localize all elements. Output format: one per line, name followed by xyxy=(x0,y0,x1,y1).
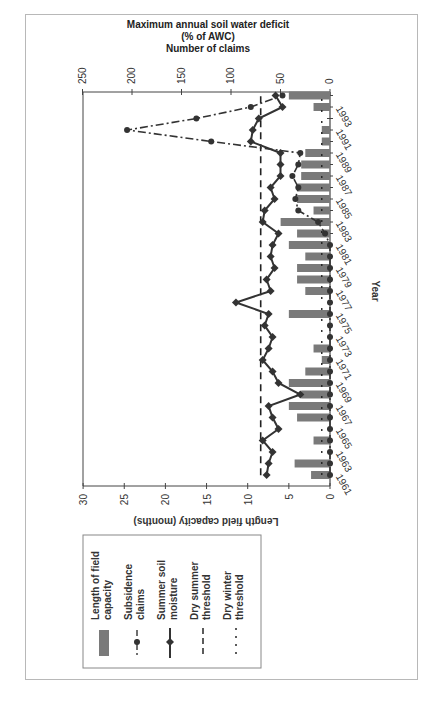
claims-marker xyxy=(327,461,333,467)
claims-marker xyxy=(295,162,301,168)
soil-moisture-marker xyxy=(265,402,273,410)
field-capacity-bar xyxy=(301,391,330,399)
year-tick-label: 1969 xyxy=(334,380,355,405)
field-capacity-bar xyxy=(322,138,330,146)
months-tick-label: 5 xyxy=(284,494,295,500)
soil-moisture-marker xyxy=(277,161,285,169)
claims-marker xyxy=(327,346,333,352)
field-capacity-bar xyxy=(305,149,330,157)
months-tick-label: 10 xyxy=(243,494,254,506)
soil-moisture-marker xyxy=(269,241,277,249)
claims-marker xyxy=(292,196,298,202)
claims-marker xyxy=(327,254,333,260)
claims-marker xyxy=(208,139,214,145)
secondary-tick-label: 150 xyxy=(176,67,187,84)
secondary-tick-label: 100 xyxy=(225,67,236,84)
claims-marker xyxy=(327,277,333,283)
field-capacity-bar xyxy=(301,161,330,169)
claims-marker xyxy=(327,265,333,271)
soil-moisture-marker xyxy=(249,126,257,134)
claims-marker xyxy=(297,150,303,156)
legend-bar-icon xyxy=(99,630,109,656)
field-capacity-bar xyxy=(297,264,330,272)
year-tick-label: 1967 xyxy=(334,403,355,428)
year-tick-label: 1989 xyxy=(334,150,355,175)
claims-marker xyxy=(327,380,333,386)
legend: Length of fieldcapacitySubsidenceclaimsS… xyxy=(83,535,261,668)
months-tick-label: 20 xyxy=(160,494,171,506)
field-capacity-bar xyxy=(322,126,330,134)
months-tick-label: 25 xyxy=(119,494,130,506)
legend-label: threshold xyxy=(234,574,245,620)
soil-moisture-marker xyxy=(267,287,275,295)
claims-marker xyxy=(327,288,333,294)
legend-label: Subsidence xyxy=(123,563,134,620)
claims-marker xyxy=(327,300,333,306)
soil-moisture-marker xyxy=(269,414,277,422)
year-tick-label: 1975 xyxy=(334,311,355,336)
year-tick-label: 1993 xyxy=(334,104,355,129)
field-capacity-bar xyxy=(297,195,330,203)
field-capacity-bar xyxy=(297,276,330,284)
secondary-tick-label: 200 xyxy=(126,67,137,84)
chart-title: Maximum annual soil water deficit (% of … xyxy=(127,19,290,54)
secondary-tick-label: 250 xyxy=(77,67,88,84)
legend-label: capacity xyxy=(102,580,113,620)
legend-label: Dry winter xyxy=(222,571,233,620)
claims-marker xyxy=(327,472,333,478)
field-capacity-bar xyxy=(289,241,330,249)
months-tick-label: 0 xyxy=(325,494,336,500)
claims-marker xyxy=(315,219,321,225)
claims-marker xyxy=(248,104,254,110)
claims-marker xyxy=(327,449,333,455)
field-capacity-bar xyxy=(289,379,330,387)
claims-marker xyxy=(327,311,333,317)
field-capacity-bar xyxy=(289,310,330,318)
legend-label: Length of field xyxy=(90,551,101,620)
claims-marker xyxy=(327,357,333,363)
claims-marker xyxy=(327,403,333,409)
legend-label: threshold xyxy=(201,574,212,620)
field-capacity-bar xyxy=(297,184,330,192)
claims-marker xyxy=(327,369,333,375)
soil-moisture-marker xyxy=(232,299,240,307)
field-capacity-bar xyxy=(281,218,330,226)
year-axis-title: Year xyxy=(370,280,381,301)
year-tick-label: 1985 xyxy=(334,196,355,221)
claims-marker xyxy=(327,438,333,444)
claims-marker xyxy=(327,415,333,421)
year-tick-label: 1981 xyxy=(334,242,355,267)
claims-marker xyxy=(327,426,333,432)
year-tick-label: 1987 xyxy=(334,173,355,198)
claims-marker xyxy=(124,127,130,133)
field-capacity-bar xyxy=(295,460,330,468)
claims-marker xyxy=(295,185,301,191)
claims-marker xyxy=(322,231,328,237)
months-tick-label: 30 xyxy=(78,494,89,506)
svg-text:(% of AWC): (% of AWC) xyxy=(181,31,235,42)
year-tick-label: 1971 xyxy=(334,357,355,382)
plot-area: 050100150200250051015202530Length field … xyxy=(77,67,382,527)
claims-marker xyxy=(327,334,333,340)
soil-moisture-marker xyxy=(263,471,271,479)
soil-moisture-marker xyxy=(265,310,273,318)
soil-moisture-line xyxy=(236,96,300,476)
field-capacity-bar xyxy=(305,368,330,376)
months-axis-title: Length field capacity (months) xyxy=(133,516,278,527)
claims-marker xyxy=(279,93,285,99)
claims-marker xyxy=(327,242,333,248)
soil-moisture-marker xyxy=(247,138,255,146)
svg-text:Number of claims: Number of claims xyxy=(166,43,250,54)
year-tick-label: 1979 xyxy=(334,265,355,290)
year-tick-label: 1983 xyxy=(334,219,355,244)
soil-moisture-marker xyxy=(275,379,283,387)
legend-label: moisture xyxy=(168,577,179,620)
soil-moisture-marker xyxy=(267,253,275,261)
year-tick-label: 1965 xyxy=(334,426,355,451)
soil-moisture-marker xyxy=(265,460,273,468)
field-capacity-bar xyxy=(314,103,330,111)
field-capacity-bar xyxy=(301,172,330,180)
claims-marker xyxy=(327,392,333,398)
secondary-tick-label: 50 xyxy=(275,72,286,84)
year-tick-label: 1977 xyxy=(334,288,355,313)
